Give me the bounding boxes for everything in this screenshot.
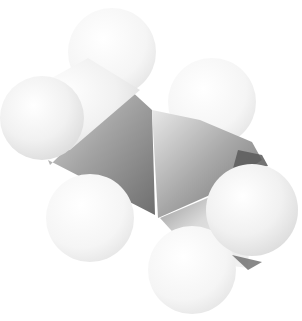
molecule-svg: [0, 0, 302, 321]
molecule-render: space-filling molecular model: [0, 0, 302, 321]
atom-upper-left: [0, 76, 84, 160]
atom-lower-left: [46, 174, 134, 262]
atom-right: [206, 164, 298, 256]
